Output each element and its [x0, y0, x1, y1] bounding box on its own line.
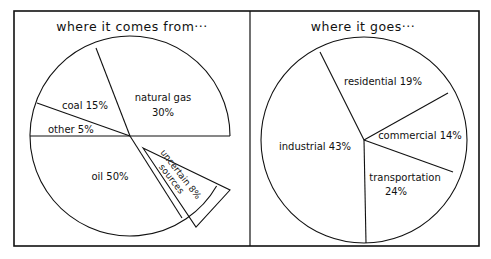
gas-label: natural gas [135, 92, 192, 103]
commercial-transportation-boundary [364, 140, 453, 172]
industrial-label: industrial 43% [279, 141, 351, 152]
residential-label: residential 19% [344, 76, 422, 87]
coal-label: coal 15% [62, 100, 108, 111]
energy-pie-charts: where it comes from··· natural gas 30% c… [0, 0, 491, 259]
uses-pie-panel: where it goes··· residential 19% commerc… [261, 19, 467, 243]
sources-title: where it comes from··· [56, 19, 208, 34]
sources-pie-panel: where it comes from··· natural gas 30% c… [30, 19, 230, 236]
transportation-industrial-boundary [364, 140, 366, 243]
commercial-label: commercial 14% [378, 130, 462, 141]
gas-pct-label: 30% [152, 107, 174, 118]
transportation-label: transportation [369, 172, 441, 183]
industrial-residential-boundary [320, 52, 364, 140]
transportation-pct-label: 24% [385, 186, 407, 197]
uses-title: where it goes··· [311, 19, 415, 34]
other-label: other 5% [48, 124, 94, 135]
coal-gas-boundary [96, 48, 130, 136]
oil-label: oil 50% [91, 171, 128, 182]
